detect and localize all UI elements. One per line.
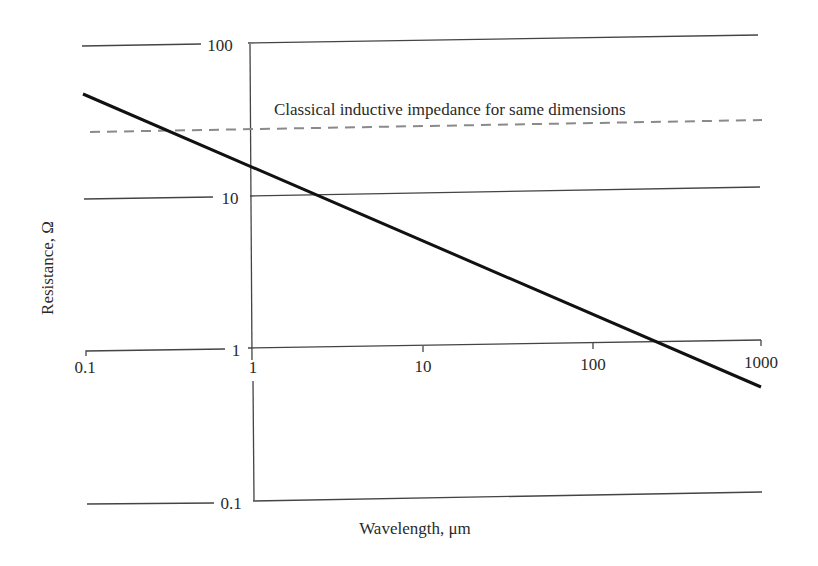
gridline-01-right bbox=[253, 492, 762, 501]
y-axis-line-lower bbox=[253, 381, 254, 501]
x-tick-label-0.1: 0.1 bbox=[74, 358, 95, 377]
x-tick-label-1000: 1000 bbox=[744, 353, 778, 372]
gridline-10-left bbox=[84, 197, 213, 199]
y-tick-label-1: 1 bbox=[232, 341, 241, 360]
y-axis-label: Resistance, Ω bbox=[38, 221, 57, 315]
resistance-line bbox=[83, 94, 761, 387]
gridline-100-right bbox=[248, 35, 758, 43]
y-tick-label-0.1: 0.1 bbox=[220, 494, 241, 513]
x-tick-label-1: 1 bbox=[249, 358, 258, 377]
x-axis-label: Wavelength, μm bbox=[359, 519, 471, 538]
gridline-10-right bbox=[250, 187, 760, 196]
chart: 100 10 1 0.1 0.1 1 10 100 1000 Classical… bbox=[0, 0, 818, 566]
gridline-100-left bbox=[82, 44, 201, 46]
x-axis-line bbox=[248, 340, 761, 348]
gridline-01-left bbox=[87, 503, 214, 504]
x-tick-label-10: 10 bbox=[415, 357, 432, 376]
classical-impedance-annotation: Classical inductive impedance for same d… bbox=[274, 100, 626, 119]
y-axis-line-upper bbox=[250, 44, 252, 360]
y-tick-label-10: 10 bbox=[222, 189, 239, 208]
classical-impedance-dashed-line bbox=[90, 120, 762, 132]
gridline-1-left bbox=[86, 349, 225, 356]
x-tick-label-100: 100 bbox=[580, 355, 606, 374]
y-tick-label-100: 100 bbox=[207, 36, 233, 55]
